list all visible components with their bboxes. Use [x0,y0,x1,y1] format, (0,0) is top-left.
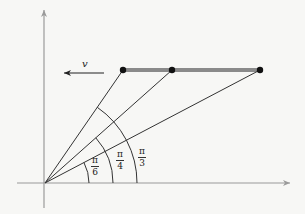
point-middle [169,67,175,73]
arc-pi-over-6 [84,163,89,183]
numerator: π [139,147,145,156]
angle-label-pi-over-3: π 3 [138,147,146,168]
denominator: 4 [117,162,123,171]
denominator: 6 [92,168,98,177]
angle-label-pi-over-4: π 4 [116,150,124,171]
numerator: π [92,156,98,165]
denominator: 3 [139,159,145,168]
diagram-canvas [0,0,305,214]
point-right [257,67,263,73]
velocity-label: v [82,58,88,69]
angle-label-pi-over-6: π 6 [91,156,99,177]
point-left [120,67,126,73]
numerator: π [117,150,123,159]
